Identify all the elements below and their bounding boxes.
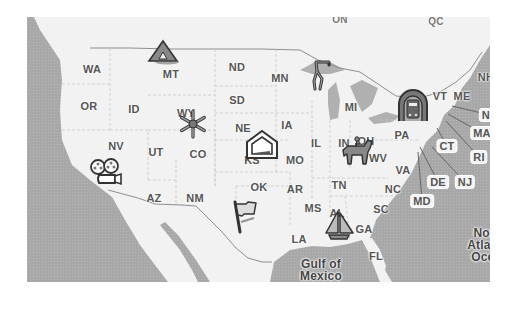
- sailboat-marker[interactable]: [322, 209, 356, 241]
- state-callout-ct: CT: [436, 139, 457, 153]
- skiing-snowflake-marker[interactable]: [178, 109, 208, 139]
- sailboat-icon: [322, 209, 356, 241]
- state-label-la: LA: [291, 233, 306, 245]
- state-callout-de: DE: [427, 175, 449, 189]
- state-label-ia: IA: [281, 119, 292, 131]
- state-label-ga: GA: [356, 223, 373, 235]
- state-label-wa: WA: [83, 63, 101, 75]
- movie-camera-icon: [89, 158, 125, 186]
- flag-marker[interactable]: [232, 200, 260, 234]
- state-label-az: AZ: [146, 192, 161, 204]
- state-callout-nh: NH: [479, 108, 490, 122]
- state-label-fl: FL: [369, 250, 383, 262]
- golfer-icon: [311, 59, 331, 91]
- home-marker[interactable]: [245, 129, 279, 161]
- snowflake-icon: [178, 109, 208, 139]
- train-icon: [396, 88, 430, 124]
- water-label-line: Mexico: [300, 270, 342, 282]
- state-label-pa: PA: [395, 129, 410, 141]
- water-label-0: Gulf ofMexico: [300, 258, 342, 282]
- state-label-sc: SC: [373, 203, 389, 215]
- water-label-1: NorthAtlanticOcean: [467, 227, 490, 263]
- map-view[interactable]: ONQCWAORIDMTNDSDMNWYNEIAMINVUTCOILINOHPA…: [27, 17, 490, 282]
- state-callout-ma: MA: [470, 126, 490, 140]
- state-label-il: IL: [311, 137, 321, 149]
- state-label-ut: UT: [148, 146, 163, 158]
- state-callout-nj: NJ: [455, 175, 475, 189]
- camping-tent-marker[interactable]: [147, 39, 179, 65]
- country-label-qc: QC: [428, 17, 443, 27]
- state-label-me: ME: [454, 90, 471, 102]
- tent-icon: [147, 39, 179, 65]
- flag-icon: [232, 200, 260, 234]
- country-label-on: ON: [332, 17, 347, 25]
- state-label-tn: TN: [331, 179, 346, 191]
- state-label-nh: NH: [478, 71, 490, 83]
- house-icon: [245, 129, 279, 161]
- state-label-vt: VT: [433, 90, 447, 102]
- state-callout-md: MD: [410, 194, 434, 208]
- state-label-nm: NM: [186, 192, 204, 204]
- state-label-mn: MN: [271, 72, 289, 84]
- state-label-id: ID: [128, 103, 139, 115]
- state-label-nc: NC: [385, 183, 401, 195]
- horse-riding-marker[interactable]: [340, 136, 374, 166]
- film-camera-marker[interactable]: [89, 158, 125, 186]
- water-label-line: Ocean: [467, 251, 490, 263]
- state-label-mi: MI: [345, 101, 358, 113]
- state-label-ok: OK: [251, 181, 268, 193]
- state-label-ar: AR: [287, 183, 303, 195]
- state-label-sd: SD: [229, 94, 245, 106]
- state-label-nd: ND: [229, 61, 245, 73]
- state-label-ms: MS: [305, 202, 322, 214]
- state-callout-ri: RI: [470, 150, 487, 164]
- state-label-or: OR: [81, 100, 98, 112]
- train-marker[interactable]: [396, 88, 430, 124]
- state-label-co: CO: [190, 148, 207, 160]
- state-label-nv: NV: [108, 140, 124, 152]
- golf-marker[interactable]: [311, 59, 331, 91]
- state-label-mo: MO: [286, 154, 304, 166]
- state-label-mt: MT: [163, 68, 179, 80]
- state-label-va: VA: [396, 164, 411, 176]
- horse-rider-icon: [340, 136, 374, 166]
